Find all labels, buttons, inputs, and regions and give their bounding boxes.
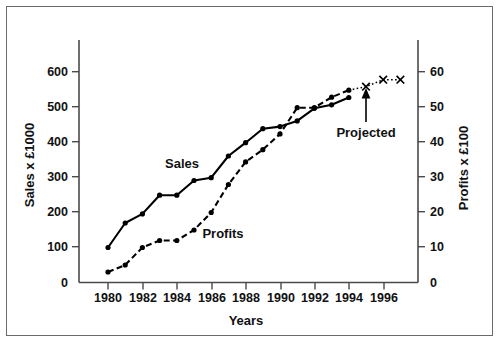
sales-line (108, 98, 349, 248)
x-axis-ticks (108, 283, 384, 290)
x-marker-1997 (397, 76, 405, 84)
left-axis-tick-labels: 600 500 400 300 200 100 0 (47, 65, 68, 290)
right-tick-label-40: 40 (430, 135, 444, 149)
left-tick-label-300: 300 (47, 170, 68, 184)
sales-series-label: Sales (165, 156, 199, 171)
right-tick-label-50: 50 (430, 100, 444, 114)
profits-series-label: Profits (202, 226, 243, 241)
x-axis-tick-labels: 1980 1982 1984 1986 1988 1990 1992 1994 … (94, 291, 398, 305)
x-marker-1996 (379, 76, 387, 84)
x-tick-label-1992: 1992 (301, 291, 329, 305)
left-axis-ticks (72, 72, 79, 247)
x-axis-title: Years (229, 313, 264, 328)
profits-points (105, 88, 351, 275)
right-axis: 60 50 40 30 20 10 0 Profits x £100 (418, 40, 471, 290)
chart-page: 600 500 400 300 200 100 0 Sales x £1000 (0, 0, 501, 345)
profits-line (108, 90, 349, 272)
left-tick-label-600: 600 (47, 65, 68, 79)
left-tick-label-200: 200 (47, 205, 68, 219)
x-tick-label-1982: 1982 (129, 291, 157, 305)
x-tick-label-1996: 1996 (370, 291, 398, 305)
right-tick-label-10: 10 (430, 240, 444, 254)
right-tick-label-20: 20 (430, 205, 444, 219)
x-tick-label-1980: 1980 (94, 291, 122, 305)
x-tick-label-1988: 1988 (232, 291, 260, 305)
right-tick-label-0: 0 (430, 276, 437, 290)
projected-annotation: Projected (336, 88, 395, 140)
left-tick-label-500: 500 (47, 100, 68, 114)
right-tick-label-30: 30 (430, 170, 444, 184)
sales-profits-line-chart: 600 500 400 300 200 100 0 Sales x £1000 (0, 0, 501, 345)
projected-markers (362, 76, 404, 91)
left-axis: 600 500 400 300 200 100 0 Sales x £1000 (22, 40, 79, 290)
right-axis-ticks (418, 72, 425, 247)
right-tick-label-60: 60 (430, 65, 444, 79)
series-projected (349, 76, 404, 91)
x-tick-label-1994: 1994 (335, 291, 363, 305)
right-axis-title: Profits x £100 (456, 126, 471, 211)
left-tick-label-400: 400 (47, 135, 68, 149)
left-tick-label-100: 100 (47, 240, 68, 254)
right-axis-tick-labels: 60 50 40 30 20 10 0 (430, 65, 444, 290)
x-tick-label-1990: 1990 (267, 291, 295, 305)
x-tick-label-1986: 1986 (198, 291, 226, 305)
x-axis: 1980 1982 1984 1986 1988 1990 1992 1994 … (79, 283, 418, 329)
left-axis-title: Sales x £1000 (22, 123, 37, 208)
series-profits: Profits (105, 88, 351, 275)
projected-annotation-label: Projected (336, 125, 395, 140)
left-tick-label-0: 0 (61, 276, 68, 290)
projected-line (349, 80, 401, 91)
x-tick-label-1984: 1984 (163, 291, 191, 305)
